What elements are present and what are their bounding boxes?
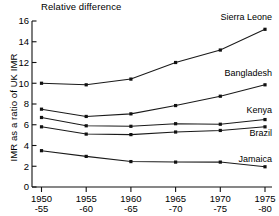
x-axis: 1950-551955-601960-651965-701970-751975-… (31, 187, 276, 214)
data-point-marker (129, 133, 132, 136)
data-point-marker (85, 83, 88, 86)
data-point-marker (129, 160, 132, 163)
series-label-jamaica: Jamaica (238, 154, 272, 164)
data-point-marker (129, 78, 132, 81)
y-tick-label: 4 (24, 140, 29, 151)
data-point-marker (85, 155, 88, 158)
data-point-marker (219, 129, 222, 132)
x-tick-label-span: -75 (213, 203, 227, 214)
x-tick-label-span: -55 (35, 203, 49, 214)
series-label-brazil: Brazil (249, 128, 272, 138)
plot-area: 0246810121416 1950-551955-601960-651965-… (0, 0, 279, 216)
y-tick-label: 2 (24, 161, 29, 172)
data-point-marker (219, 95, 222, 98)
y-tick-label: 14 (18, 36, 29, 47)
y-tick-label: 12 (18, 57, 29, 68)
data-point-marker (219, 123, 222, 126)
x-tick-label-span: -60 (79, 203, 93, 214)
series-line-jamaica (42, 151, 266, 167)
series-layer (40, 28, 267, 169)
x-tick-label-span: -65 (124, 203, 138, 214)
data-point-marker (263, 118, 266, 121)
data-point-marker (174, 61, 177, 64)
data-point-marker (85, 115, 88, 118)
y-tick-label: 10 (18, 78, 29, 89)
series-labels: Sierra LeoneBangladeshKenyaBrazilJamaica (220, 12, 272, 164)
series-line-brazil (42, 127, 266, 135)
data-point-marker (219, 161, 222, 164)
data-point-marker (263, 83, 266, 86)
data-point-marker (174, 122, 177, 125)
data-point-marker (129, 112, 132, 115)
x-tick-label-span: -70 (169, 203, 183, 214)
data-point-marker (40, 125, 43, 128)
data-point-marker (40, 82, 43, 85)
y-tick-label: 8 (24, 98, 29, 109)
series-line-bangladesh (42, 85, 266, 117)
data-point-marker (263, 28, 266, 31)
y-axis: 0246810121416 (18, 15, 36, 192)
y-tick-label: 16 (18, 15, 29, 26)
series-line-kenya (42, 117, 266, 126)
data-point-marker (85, 132, 88, 135)
data-point-marker (85, 124, 88, 127)
series-label-bangladesh: Bangladesh (224, 68, 272, 78)
series-label-sierra-leone: Sierra Leone (220, 12, 272, 22)
data-point-marker (174, 130, 177, 133)
series-label-kenya: Kenya (246, 105, 272, 115)
data-point-marker (174, 104, 177, 107)
data-point-marker (40, 108, 43, 111)
data-point-marker (129, 125, 132, 128)
data-point-marker (219, 48, 222, 51)
chart-figure: Relative difference IMR as a ratio of UK… (0, 0, 279, 216)
data-point-marker (174, 161, 177, 164)
data-point-marker (263, 165, 266, 168)
data-point-marker (40, 149, 43, 152)
y-tick-label: 0 (24, 181, 29, 192)
y-tick-label: 6 (24, 119, 29, 130)
data-point-marker (40, 116, 43, 119)
x-tick-label-span: -80 (258, 203, 272, 214)
